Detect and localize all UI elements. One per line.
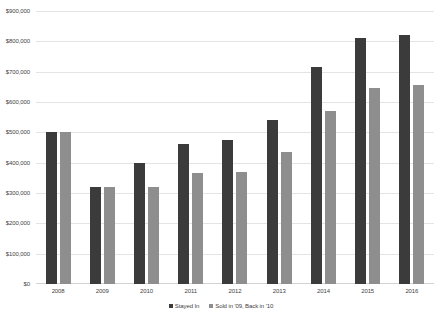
bar[interactable] — [46, 132, 57, 284]
y-axis-tick-label: $200,000 — [6, 220, 30, 227]
chart-legend: Stayed InSold in '09, Back in '10 — [0, 302, 442, 310]
bar[interactable] — [148, 187, 159, 284]
bar-series-container — [36, 11, 434, 284]
bar-group — [301, 11, 345, 284]
bar[interactable] — [281, 152, 292, 284]
legend-label: Sold in '09, Back in '10 — [215, 302, 273, 310]
x-axis-tick-label: 2013 — [257, 286, 301, 298]
x-axis-tick-label: 2016 — [390, 286, 434, 298]
y-axis: $0$100,000$200,000$300,000$400,000$500,0… — [0, 11, 33, 284]
y-axis-tick-label: $600,000 — [6, 99, 30, 106]
bar-group — [257, 11, 301, 284]
x-axis-tick-label: 2008 — [36, 286, 80, 298]
bar-group — [80, 11, 124, 284]
y-axis-tick-label: $900,000 — [6, 8, 30, 15]
y-axis-tick-label: $700,000 — [6, 68, 30, 75]
x-axis-tick-label: 2015 — [346, 286, 390, 298]
bar-group — [36, 11, 80, 284]
legend-label: Stayed In — [175, 302, 199, 310]
bar[interactable] — [60, 132, 71, 284]
x-axis-tick-label: 2012 — [213, 286, 257, 298]
y-axis-tick-label: $500,000 — [6, 129, 30, 136]
legend-swatch-icon — [169, 304, 173, 308]
bar[interactable] — [413, 85, 424, 284]
bar-group — [213, 11, 257, 284]
y-axis-tick-label: $100,000 — [6, 250, 30, 257]
x-axis-tick-label: 2014 — [301, 286, 345, 298]
bar[interactable] — [369, 88, 380, 284]
bar[interactable] — [325, 111, 336, 284]
x-axis-tick-label: 2011 — [169, 286, 213, 298]
bar-group — [169, 11, 213, 284]
bar[interactable] — [355, 38, 366, 284]
bar[interactable] — [222, 140, 233, 284]
bar[interactable] — [192, 173, 203, 284]
bar[interactable] — [178, 144, 189, 284]
y-axis-tick-label: $800,000 — [6, 38, 30, 45]
chart-title — [0, 0, 442, 3]
x-axis: 200820092010201120122013201420152016 — [36, 286, 434, 298]
bar[interactable] — [399, 35, 410, 284]
bar-chart: $0$100,000$200,000$300,000$400,000$500,0… — [0, 0, 442, 316]
bar[interactable] — [236, 172, 247, 284]
x-axis-tick-label: 2009 — [80, 286, 124, 298]
bar-group — [346, 11, 390, 284]
bar[interactable] — [90, 187, 101, 284]
y-axis-tick-label: $400,000 — [6, 159, 30, 166]
bar[interactable] — [104, 187, 115, 284]
legend-item[interactable]: Stayed In — [169, 302, 199, 310]
legend-item[interactable]: Sold in '09, Back in '10 — [209, 302, 273, 310]
y-axis-tick-label: $300,000 — [6, 190, 30, 197]
bar[interactable] — [311, 67, 322, 284]
y-axis-tick-label: $0 — [24, 281, 30, 288]
x-axis-tick-label: 2010 — [124, 286, 168, 298]
bar-group — [390, 11, 434, 284]
legend-swatch-icon — [209, 304, 213, 308]
bar[interactable] — [267, 120, 278, 284]
bar-group — [124, 11, 168, 284]
bar[interactable] — [134, 163, 145, 284]
